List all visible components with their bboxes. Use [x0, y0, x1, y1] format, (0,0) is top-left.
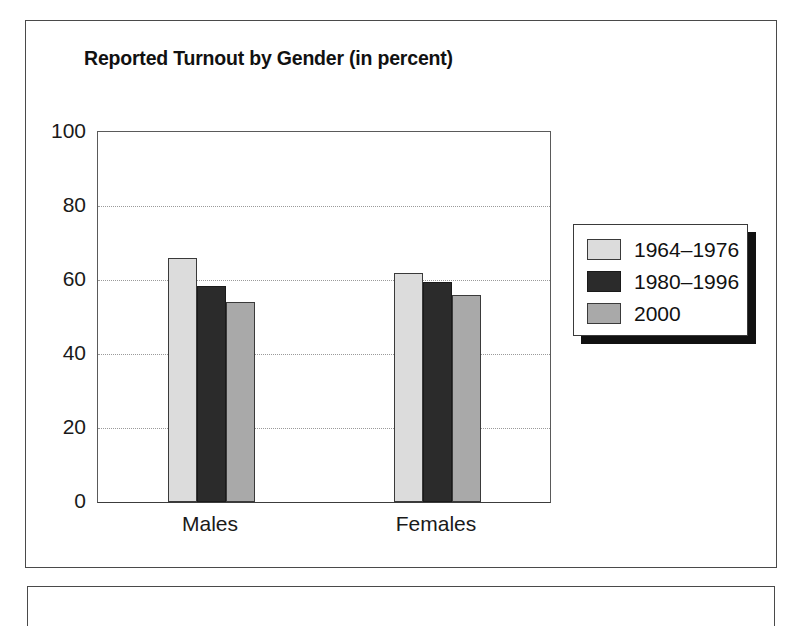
legend-swatch: [587, 303, 621, 324]
legend-item: 1964–1976: [587, 234, 747, 265]
bar-females-1964–1976: [394, 273, 423, 502]
y-tick-label: 40: [63, 341, 86, 365]
gridline-80: [98, 206, 550, 207]
x-category-label: Females: [396, 512, 477, 536]
bar-males-1964–1976: [168, 258, 197, 502]
legend-swatch: [587, 239, 621, 260]
lower-partial-border: [27, 586, 775, 626]
x-category-label: Males: [182, 512, 238, 536]
legend-item: 1980–1996: [587, 266, 747, 297]
gridline-60: [98, 280, 550, 281]
y-tick-label: 100: [51, 119, 86, 143]
y-tick-label: 20: [63, 415, 86, 439]
legend-label: 2000: [634, 302, 681, 326]
chart-title: Reported Turnout by Gender (in percent): [84, 47, 453, 70]
y-tick-label: 0: [74, 489, 86, 513]
legend-item: 2000: [587, 298, 747, 329]
y-tick-label: 80: [63, 193, 86, 217]
bar-males-2000: [226, 302, 255, 502]
chart-legend: 1964–19761980–19962000: [573, 224, 748, 336]
legend-label: 1980–1996: [634, 270, 739, 294]
gridline-40: [98, 354, 550, 355]
y-tick-label: 60: [63, 267, 86, 291]
gridline-20: [98, 428, 550, 429]
legend-label: 1964–1976: [634, 238, 739, 262]
legend-swatch: [587, 271, 621, 292]
bar-females-2000: [452, 295, 481, 502]
y-axis: 020406080100: [28, 131, 86, 503]
bar-males-1980–1996: [197, 286, 226, 502]
bar-females-1980–1996: [423, 282, 452, 502]
plot-area: [97, 131, 551, 503]
